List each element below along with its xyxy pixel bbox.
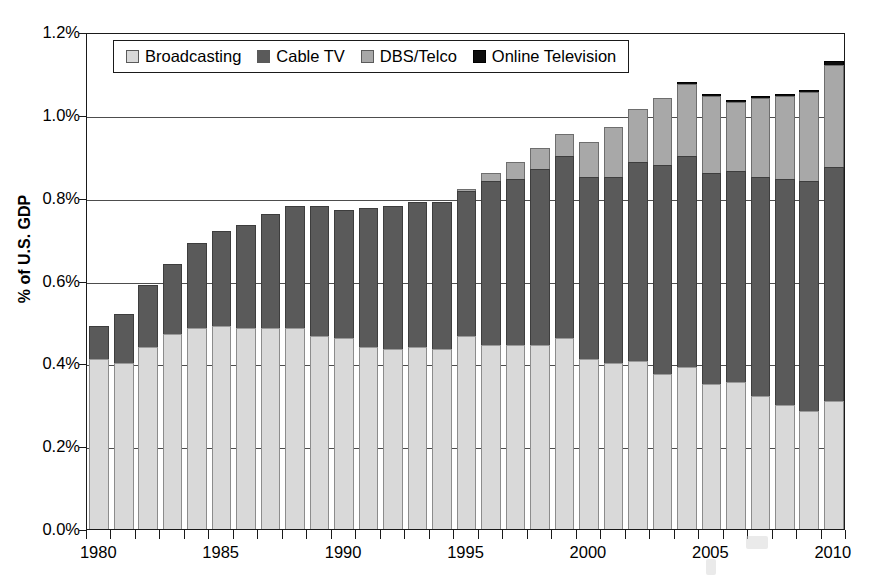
bar-segment-dbs-telco[interactable] — [751, 98, 771, 177]
bar-segment-dbs-telco[interactable] — [604, 127, 624, 177]
bar-segment-cable-tv[interactable] — [726, 171, 746, 382]
bar-1985[interactable] — [212, 231, 232, 529]
bar-1987[interactable] — [261, 214, 281, 529]
bar-segment-broadcasting[interactable] — [383, 349, 403, 529]
bar-segment-dbs-telco[interactable] — [799, 92, 819, 181]
bar-segment-broadcasting[interactable] — [628, 361, 648, 529]
bar-segment-cable-tv[interactable] — [579, 177, 599, 359]
legend-item-cable-tv[interactable]: Cable TV — [257, 47, 344, 66]
bar-segment-dbs-telco[interactable] — [481, 173, 501, 181]
legend-item-online-television[interactable]: Online Television — [473, 47, 616, 66]
bar-1991[interactable] — [359, 208, 379, 529]
bar-segment-cable-tv[interactable] — [702, 173, 722, 384]
bar-2006[interactable] — [726, 100, 746, 529]
bar-segment-broadcasting[interactable] — [653, 374, 673, 529]
bar-1982[interactable] — [138, 285, 158, 529]
bar-segment-cable-tv[interactable] — [285, 206, 305, 328]
bar-segment-cable-tv[interactable] — [530, 169, 550, 345]
bar-segment-cable-tv[interactable] — [261, 214, 281, 328]
bar-segment-broadcasting[interactable] — [114, 363, 134, 529]
legend-item-broadcasting[interactable]: Broadcasting — [126, 47, 241, 66]
bar-2000[interactable] — [579, 142, 599, 529]
bar-2009[interactable] — [799, 90, 819, 529]
bar-segment-broadcasting[interactable] — [530, 345, 550, 529]
bar-segment-cable-tv[interactable] — [163, 264, 183, 334]
bar-segment-broadcasting[interactable] — [334, 338, 354, 529]
bar-1997[interactable] — [506, 162, 526, 529]
bar-1999[interactable] — [555, 134, 575, 530]
bar-1992[interactable] — [383, 206, 403, 529]
bar-segment-cable-tv[interactable] — [310, 206, 330, 336]
bar-segment-broadcasting[interactable] — [824, 401, 844, 529]
bar-segment-dbs-telco[interactable] — [579, 142, 599, 177]
bar-2004[interactable] — [677, 82, 697, 529]
bar-segment-broadcasting[interactable] — [236, 328, 256, 529]
bar-segment-cable-tv[interactable] — [604, 177, 624, 363]
bar-1988[interactable] — [285, 206, 305, 529]
bar-1996[interactable] — [481, 173, 501, 529]
bar-segment-broadcasting[interactable] — [726, 382, 746, 529]
bar-2005[interactable] — [702, 94, 722, 529]
bar-2008[interactable] — [775, 94, 795, 529]
bar-segment-cable-tv[interactable] — [432, 202, 452, 349]
bar-segment-broadcasting[interactable] — [89, 359, 109, 529]
bar-segment-broadcasting[interactable] — [212, 326, 232, 529]
bar-segment-dbs-telco[interactable] — [775, 96, 795, 179]
bar-segment-broadcasting[interactable] — [432, 349, 452, 529]
bar-segment-dbs-telco[interactable] — [506, 162, 526, 179]
bar-2003[interactable] — [653, 98, 673, 529]
bar-segment-dbs-telco[interactable] — [555, 134, 575, 157]
bar-segment-broadcasting[interactable] — [677, 367, 697, 529]
bar-segment-broadcasting[interactable] — [604, 363, 624, 529]
bar-segment-cable-tv[interactable] — [408, 202, 428, 347]
bar-segment-dbs-telco[interactable] — [677, 84, 697, 156]
bar-segment-cable-tv[interactable] — [677, 156, 697, 367]
bar-segment-cable-tv[interactable] — [628, 162, 648, 361]
bar-segment-cable-tv[interactable] — [799, 181, 819, 411]
bar-segment-broadcasting[interactable] — [506, 345, 526, 529]
bar-segment-cable-tv[interactable] — [359, 208, 379, 347]
bar-segment-broadcasting[interactable] — [285, 328, 305, 529]
bar-segment-cable-tv[interactable] — [506, 179, 526, 345]
bar-1998[interactable] — [530, 148, 550, 529]
bar-segment-broadcasting[interactable] — [187, 328, 207, 529]
bar-segment-cable-tv[interactable] — [236, 225, 256, 329]
bar-segment-cable-tv[interactable] — [89, 326, 109, 359]
bar-segment-cable-tv[interactable] — [334, 210, 354, 338]
bar-segment-dbs-telco[interactable] — [824, 65, 844, 166]
bar-segment-broadcasting[interactable] — [702, 384, 722, 529]
bar-segment-dbs-telco[interactable] — [530, 148, 550, 169]
bar-1984[interactable] — [187, 243, 207, 529]
bar-segment-broadcasting[interactable] — [359, 347, 379, 529]
bar-segment-cable-tv[interactable] — [383, 206, 403, 349]
bar-2002[interactable] — [628, 109, 648, 529]
bar-segment-broadcasting[interactable] — [481, 345, 501, 529]
bar-segment-cable-tv[interactable] — [212, 231, 232, 326]
bar-segment-broadcasting[interactable] — [555, 338, 575, 529]
bar-segment-cable-tv[interactable] — [481, 181, 501, 345]
bar-segment-broadcasting[interactable] — [751, 396, 771, 529]
bar-segment-dbs-telco[interactable] — [726, 102, 746, 170]
bar-segment-cable-tv[interactable] — [824, 167, 844, 401]
bar-segment-cable-tv[interactable] — [187, 243, 207, 328]
bar-segment-cable-tv[interactable] — [775, 179, 795, 405]
bar-segment-dbs-telco[interactable] — [702, 96, 722, 173]
bar-segment-broadcasting[interactable] — [799, 411, 819, 529]
bar-segment-broadcasting[interactable] — [579, 359, 599, 529]
bar-2001[interactable] — [604, 127, 624, 529]
bar-segment-cable-tv[interactable] — [751, 177, 771, 397]
bar-1993[interactable] — [408, 202, 428, 529]
bar-segment-dbs-telco[interactable] — [653, 98, 673, 164]
bar-segment-broadcasting[interactable] — [163, 334, 183, 529]
bar-segment-broadcasting[interactable] — [408, 347, 428, 529]
bar-segment-cable-tv[interactable] — [457, 191, 477, 336]
bar-segment-broadcasting[interactable] — [138, 347, 158, 529]
bar-1981[interactable] — [114, 314, 134, 529]
bar-1995[interactable] — [457, 189, 477, 529]
bar-segment-broadcasting[interactable] — [775, 405, 795, 529]
legend-item-dbs-telco[interactable]: DBS/Telco — [361, 47, 457, 66]
bar-segment-broadcasting[interactable] — [457, 336, 477, 529]
bar-2010[interactable] — [824, 61, 844, 529]
bar-segment-broadcasting[interactable] — [310, 336, 330, 529]
bar-segment-broadcasting[interactable] — [261, 328, 281, 529]
